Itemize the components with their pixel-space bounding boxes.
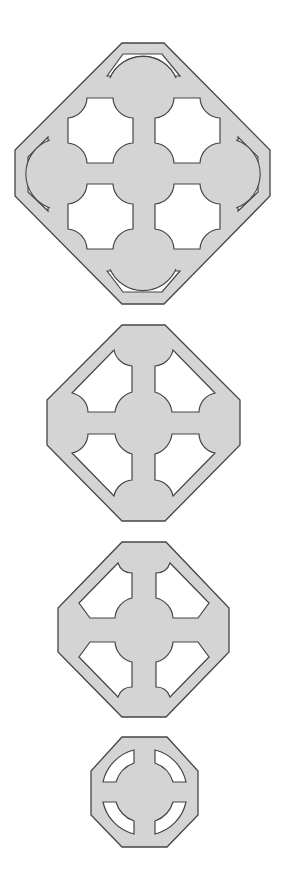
tile-2-outline bbox=[47, 325, 240, 521]
octagon-tile-2 bbox=[47, 325, 240, 521]
diagram-canvas bbox=[0, 0, 283, 881]
tile-4-outline bbox=[91, 737, 198, 847]
tile-3-outline bbox=[58, 542, 229, 717]
octagon-tile-4 bbox=[91, 737, 198, 847]
octagon-tile-1 bbox=[15, 43, 270, 304]
tile-1-outline bbox=[15, 43, 270, 304]
octagon-tile-3 bbox=[58, 542, 229, 717]
